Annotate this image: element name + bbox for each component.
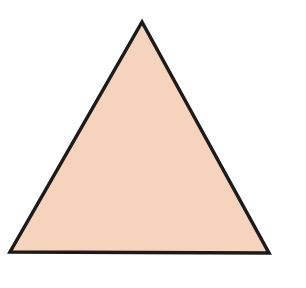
- triangle-diagram: [0, 0, 306, 288]
- triangle-shape: [10, 22, 269, 253]
- diagram-canvas: [0, 0, 306, 288]
